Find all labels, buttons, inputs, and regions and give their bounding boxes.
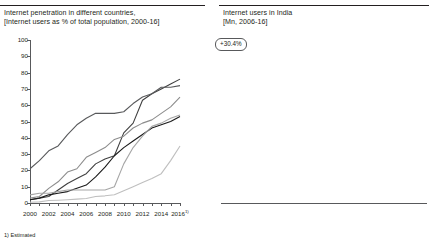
growth-arrow-svg [215,38,431,228]
line-series-brazil [30,97,180,198]
line-chart: 0102030405060708090100 20002002200420062… [0,38,215,228]
line-series-russia [30,79,180,200]
footnote-left: 1) Estimated [4,232,35,239]
line-series-malaysia [30,86,180,169]
line-series-svg [0,38,215,228]
top-rule-left [0,5,205,6]
left-chart-title: Internet penetration in different countr… [4,9,160,27]
right-chart-panel: Internet users in India [Mn, 2006-16] +3… [215,0,431,245]
bar-chart: +30.4% [215,38,431,228]
top-rule-right [219,5,429,6]
line-series-china [30,117,180,200]
cagr-callout: +30.4% [215,38,247,51]
line-series-south-africa [30,115,180,195]
left-chart-panel: Internet penetration in different countr… [0,0,215,245]
right-chart-title: Internet users in India [Mn, 2006-16] [223,9,292,27]
slide-root: Internet penetration in different countr… [0,0,431,245]
